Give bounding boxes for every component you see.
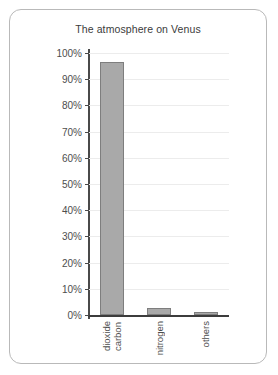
y-axis-tick [85,79,89,80]
chart-card: The atmosphere on Venus 0%10%20%30%40%50… [9,9,267,364]
bar[interactable] [194,312,218,315]
x-axis-category-label: others [200,321,211,347]
y-axis-tick [85,184,89,185]
y-axis-tick-label: 10% [62,283,82,294]
y-axis-tick-label: 20% [62,257,82,268]
y-axis-tick-label: 0% [68,310,82,321]
y-axis-tick [85,263,89,264]
y-axis-tick [85,132,89,133]
x-axis-category-label: nitrogen [154,321,165,355]
gridline [89,53,229,54]
y-axis-tick-label: 50% [62,179,82,190]
chart-title: The atmosphere on Venus [10,23,266,35]
x-axis-label-line: dioxide [101,321,112,351]
x-axis-label-line: carbon [112,321,123,351]
y-axis-tick [85,289,89,290]
x-axis-category-label: carbondioxide [101,321,123,351]
y-axis-tick [85,315,89,316]
bar[interactable] [100,62,124,315]
y-axis-tick-label: 90% [62,74,82,85]
y-axis-tick-label: 40% [62,205,82,216]
y-axis-tick-label: 80% [62,100,82,111]
y-axis-tick-label: 100% [56,48,82,59]
x-axis-line [88,315,229,317]
y-axis-tick-label: 70% [62,126,82,137]
y-axis-tick-label: 60% [62,152,82,163]
bar[interactable] [147,308,171,315]
y-axis-tick [85,210,89,211]
plot-area: 0%10%20%30%40%50%60%70%80%90%100% carbon… [89,53,229,315]
x-axis-label-line: nitrogen [154,321,165,355]
y-axis-tick [85,53,89,54]
y-axis-tick [85,105,89,106]
y-axis-tick [85,236,89,237]
x-axis-label-line: others [200,321,211,347]
y-axis-tick-label: 30% [62,231,82,242]
y-axis-tick [85,158,89,159]
